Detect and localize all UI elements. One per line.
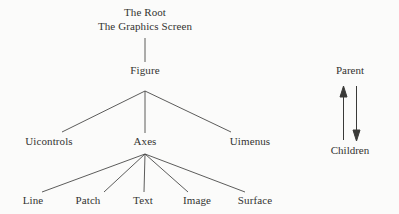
node-text: Text bbox=[133, 194, 153, 208]
edge-figure-uicontrols bbox=[62, 91, 145, 132]
node-patch-label: Patch bbox=[76, 194, 101, 206]
node-root-line2: The Graphics Screen bbox=[98, 20, 192, 34]
node-figure: Figure bbox=[130, 64, 159, 78]
edge-axes-patch bbox=[104, 154, 145, 192]
legend-children-label: Children bbox=[331, 144, 370, 156]
node-image: Image bbox=[183, 194, 211, 208]
edge-axes-image bbox=[145, 154, 188, 192]
edge-axes-surface bbox=[145, 154, 245, 192]
node-patch: Patch bbox=[76, 194, 101, 208]
node-uimenus: Uimenus bbox=[230, 135, 270, 149]
node-image-label: Image bbox=[183, 194, 211, 206]
node-uicontrols: Uicontrols bbox=[25, 135, 72, 149]
diagram-canvas: The Root The Graphics Screen Figure Uico… bbox=[0, 0, 399, 214]
legend-children: Children bbox=[331, 144, 370, 158]
node-line-label: Line bbox=[23, 194, 44, 206]
node-axes: Axes bbox=[133, 135, 156, 149]
node-surface: Surface bbox=[238, 194, 272, 208]
node-figure-label: Figure bbox=[130, 64, 159, 76]
node-uimenus-label: Uimenus bbox=[230, 135, 270, 147]
node-uicontrols-label: Uicontrols bbox=[25, 135, 72, 147]
edge-figure-uimenus bbox=[145, 91, 231, 132]
node-surface-label: Surface bbox=[238, 194, 272, 206]
node-line: Line bbox=[23, 194, 44, 208]
node-root-line1: The Root bbox=[98, 6, 192, 20]
legend-parent: Parent bbox=[336, 64, 364, 78]
node-text-label: Text bbox=[133, 194, 153, 206]
arrow-up-head bbox=[340, 86, 347, 97]
edge-axes-text bbox=[144, 154, 145, 192]
edge-axes-line bbox=[42, 154, 145, 192]
arrow-down-head bbox=[353, 130, 360, 141]
diagram-edges bbox=[0, 0, 399, 214]
node-axes-label: Axes bbox=[133, 135, 156, 147]
legend-parent-label: Parent bbox=[336, 64, 364, 76]
node-root: The Root The Graphics Screen bbox=[98, 6, 192, 33]
